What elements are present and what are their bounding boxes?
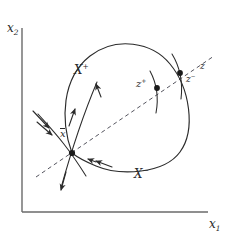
axis-group [22,28,208,212]
transversal-section-z [172,54,182,99]
phase-portrait-figure: x2 x1 X+ X− x z+ z− z [0,0,232,240]
flow-arrow-loop-bottom-left [96,161,112,167]
x-axis-label: x1 [209,218,221,230]
y-axis-label: x2 [7,22,19,34]
transversal-section-z-plus [150,71,157,113]
region-label-x-plus: X+ [74,64,89,76]
flow-arrow-loop-left-up [69,109,75,126]
flow-arrow-manifold-out-down [61,172,66,190]
equilibrium-point-label: x [60,128,66,139]
region-label-x-minus: X− [134,168,149,180]
figure-canvas [0,0,232,240]
z-minus-point-dot [177,70,183,76]
z-minus-point-label: z− [186,75,195,84]
z-plus-point-dot [154,85,160,91]
z-annotation-label: z [200,62,205,71]
z-plus-point-label: z+ [136,79,146,89]
flow-arrow-loop-right-in [88,159,96,162]
flow-arrow-group [33,84,112,190]
equilibrium-point-dot [69,150,75,156]
flow-arrow-manifold-out-up [96,84,101,97]
